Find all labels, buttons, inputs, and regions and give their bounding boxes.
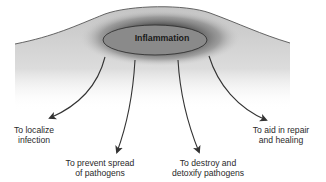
outcome-line: of pathogens <box>55 168 145 178</box>
outcome-prevent-spread: To prevent spread of pathogens <box>55 158 145 178</box>
outcome-line: To destroy and <box>163 158 253 168</box>
outcome-line: To aid in repair <box>236 125 326 135</box>
outcome-line: and healing <box>236 135 326 145</box>
outcome-line: detoxify pathogens <box>163 168 253 178</box>
outcome-repair-healing: To aid in repair and healing <box>236 125 326 145</box>
outcome-line: To localize <box>4 125 64 135</box>
diagram-canvas <box>0 0 326 182</box>
inflammation-label: Inflammation <box>112 33 212 43</box>
inflammation-diagram: Inflammation To localize infection To pr… <box>0 0 326 182</box>
outcome-line: To prevent spread <box>55 158 145 168</box>
outcome-localize-infection: To localize infection <box>4 125 64 145</box>
outcome-destroy-pathogens: To destroy and detoxify pathogens <box>163 158 253 178</box>
outcome-line: infection <box>4 135 64 145</box>
